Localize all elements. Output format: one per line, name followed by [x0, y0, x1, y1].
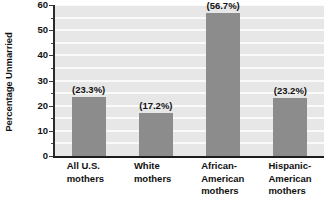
- y-axis-tick-label: 0: [22, 151, 48, 161]
- category-label-line: White: [134, 160, 171, 173]
- category-label-line: American: [268, 173, 311, 186]
- bar: [273, 98, 307, 156]
- category-label-line: mothers: [67, 173, 104, 186]
- gridline: [55, 67, 324, 69]
- category-label: Hispanic-Americanmothers: [268, 160, 311, 198]
- category-label: All U.S.mothers: [67, 160, 104, 185]
- y-axis-tick-label: 40: [22, 50, 48, 60]
- x-axis-category-labels: All U.S.mothersWhitemothersAfrican-Ameri…: [53, 160, 324, 202]
- category-label-line: African-: [201, 160, 244, 173]
- category-label-line: American: [201, 173, 244, 186]
- bar: [72, 97, 106, 156]
- category-label-line: mothers: [268, 185, 311, 198]
- y-axis-tick-label: 20: [22, 101, 48, 111]
- gridline: [55, 42, 324, 44]
- category-label-line: mothers: [201, 185, 244, 198]
- y-axis-title: Percentage Unmarried: [2, 2, 16, 162]
- y-axis-tick-labels: 0102030405060: [22, 0, 48, 202]
- category-label: Whitemothers: [134, 160, 171, 185]
- y-axis-tick-label: 10: [22, 126, 48, 136]
- y-axis-tick-label: 50: [22, 25, 48, 35]
- x-axis-line: [53, 156, 324, 158]
- bar-value-label: (17.2%): [126, 100, 186, 111]
- y-axis-tick-label: 30: [22, 76, 48, 86]
- bar: [206, 13, 240, 156]
- category-label-line: Hispanic-: [268, 160, 311, 173]
- bar-value-label: (23.2%): [260, 85, 320, 96]
- gridline: [55, 54, 324, 56]
- gridline: [55, 17, 324, 19]
- category-label-line: mothers: [134, 173, 171, 186]
- gridline: [55, 29, 324, 31]
- gridline: [55, 5, 324, 6]
- y-axis-tick-label: 60: [22, 0, 48, 10]
- category-label-line: All U.S.: [67, 160, 104, 173]
- category-label: African-Americanmothers: [201, 160, 244, 198]
- bar-value-label: (56.7%): [193, 0, 253, 11]
- plot-area: [55, 5, 324, 156]
- bar: [139, 113, 173, 156]
- bar-value-label: (23.3%): [59, 84, 119, 95]
- gridline: [55, 80, 324, 82]
- bar-chart: Percentage Unmarried 0102030405060 All U…: [0, 0, 324, 202]
